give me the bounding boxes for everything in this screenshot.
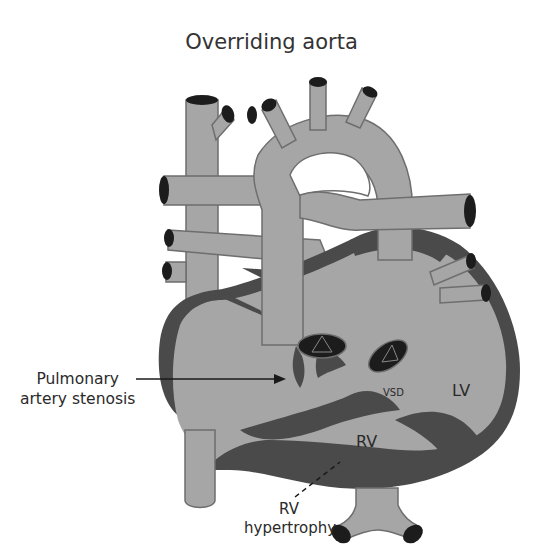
label-line: Pulmonary	[20, 369, 135, 389]
label-line: hypertrophy	[244, 519, 334, 538]
descending-vessel	[327, 488, 426, 547]
label-pulmonary-artery-stenosis: Pulmonary artery stenosis	[20, 369, 135, 409]
heart-illustration	[159, 77, 520, 547]
label-line: artery stenosis	[20, 389, 135, 409]
label-vsd: VSD	[383, 387, 404, 398]
label-left-ventricle: LV	[452, 381, 470, 400]
diagram-title: Overriding aorta	[0, 30, 543, 54]
tetralogy-of-fallot-heart-diagram	[0, 0, 543, 550]
label-line: RV	[244, 500, 334, 519]
label-right-ventricle: RV	[356, 432, 377, 451]
pulmonary-artery-branch	[300, 192, 476, 230]
inferior-vena-cava	[185, 430, 215, 508]
label-rv-hypertrophy: RV hypertrophy	[244, 500, 334, 538]
pulmonary-valve	[298, 334, 346, 358]
